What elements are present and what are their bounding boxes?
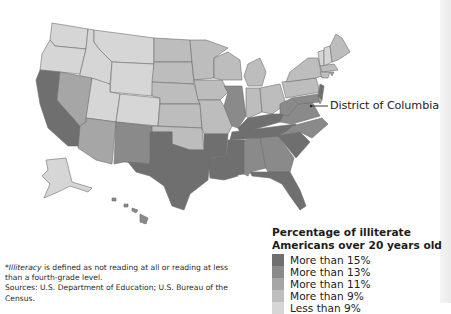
legend-label: More than 9% — [290, 290, 364, 302]
legend-swatch — [272, 278, 284, 290]
state-maine — [330, 34, 350, 62]
state-hawaii-1 — [112, 198, 116, 201]
legend-swatch — [272, 266, 284, 278]
legend-item-more-than-13: More than 13% — [272, 266, 442, 278]
legend-swatch — [272, 254, 284, 266]
state-south-dakota — [152, 62, 194, 84]
legend-title-line2: Americans over 20 years old — [272, 239, 442, 252]
state-washington — [50, 23, 88, 49]
state-wisconsin — [214, 52, 242, 80]
legend-item-more-than-9: More than 9% — [272, 290, 442, 302]
state-arkansas — [204, 134, 228, 158]
state-new-york — [286, 58, 322, 82]
legend-item-more-than-15: More than 15% — [272, 254, 442, 266]
map-legend: Percentage of illiterate Americans over … — [272, 226, 442, 314]
legend-label: Less than 9% — [290, 302, 361, 314]
state-michigan — [244, 58, 266, 86]
state-florida — [250, 172, 306, 210]
state-kansas — [158, 104, 202, 128]
legend-item-more-than-11: More than 11% — [272, 278, 442, 290]
state-rhode-island — [330, 72, 334, 76]
state-north-dakota — [154, 38, 192, 62]
legend-item-less-than-9: Less than 9% — [272, 302, 442, 314]
footnote-term: Illiteracy — [9, 263, 42, 272]
legend-swatch — [272, 290, 284, 302]
footnote-definition: *Illiteracy is defined as not reading at… — [5, 263, 245, 283]
state-mississippi — [226, 140, 244, 176]
legend-label: More than 15% — [290, 254, 371, 266]
state-wyoming — [110, 62, 154, 96]
state-colorado — [116, 94, 160, 126]
legend-title-line1: Percentage of illiterate — [272, 226, 442, 239]
dc-marker — [310, 105, 312, 107]
state-new-mexico — [114, 122, 152, 164]
legend-swatch — [272, 302, 284, 314]
state-indiana — [246, 88, 262, 118]
state-connecticut — [320, 72, 330, 78]
legend-title: Percentage of illiterate Americans over … — [272, 226, 442, 251]
legend-label: More than 11% — [290, 278, 371, 290]
state-alaska — [42, 158, 92, 198]
state-hawaii-2 — [124, 204, 128, 207]
footnote: *Illiteracy is defined as not reading at… — [5, 263, 245, 304]
state-iowa — [194, 80, 228, 100]
state-arizona — [78, 118, 116, 164]
state-hawaii-4 — [140, 214, 148, 224]
legend-label: More than 13% — [290, 266, 371, 278]
footnote-sources: Sources: U.S. Department of Education; U… — [5, 283, 245, 303]
state-hawaii-3 — [132, 208, 138, 213]
dc-callout-label: District of Columbia — [330, 99, 439, 112]
